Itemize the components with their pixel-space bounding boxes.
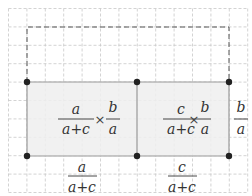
bottom-left-fraction: a a+c [68,159,97,195]
bottom-left-num: a [78,159,86,175]
side-den: a [237,121,245,137]
bottom-left-den: a+c [68,179,96,195]
left-times-sign: × [95,112,106,127]
left-den1: a+c [62,121,90,137]
side-num: b [237,99,246,115]
area-model-diagram: a a+c × b a c a+c × b a b a a a+c c a+c [0,0,252,196]
point-top-middle [134,79,140,85]
point-bottom-left [24,153,30,159]
dashed-outline [27,27,229,82]
right-den2: a [201,121,209,137]
right-times-sign: × [189,112,200,127]
point-bottom-middle [134,153,140,159]
left-num2: b [109,99,118,115]
bottom-right-den: a+c [168,179,196,195]
side-fraction-label: b a [234,99,248,137]
point-bottom-right [226,153,232,159]
dashed-rectangle [27,27,229,82]
point-top-left [24,79,30,85]
bottom-right-num: c [178,159,186,175]
left-den2: a [109,121,117,137]
right-num1: c [177,101,185,117]
point-top-right [226,79,232,85]
right-num2: b [201,99,210,115]
left-num1: a [72,101,80,117]
